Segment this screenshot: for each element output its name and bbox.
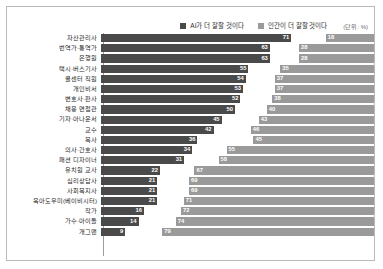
bar-ai: 54 <box>101 75 246 83</box>
bar-human: 71 <box>184 197 374 205</box>
bar-human: 55 <box>227 146 374 154</box>
bar-human: 72 <box>181 207 374 215</box>
bar-human: 67 <box>194 166 374 174</box>
bar-value-ai: 53 <box>233 86 243 92</box>
bar-ai: 21 <box>101 197 157 205</box>
legend-swatch-ai-icon <box>180 23 186 29</box>
bar-row: 유치원 교사2267 <box>7 165 374 175</box>
legend-item-ai: AI가 더 잘할 것이다 <box>180 23 244 30</box>
bar-pair: 5337 <box>101 84 374 94</box>
bar-value-ai: 21 <box>147 198 157 204</box>
bar-ai: 31 <box>101 156 184 164</box>
category-label: 은행원 <box>7 55 101 61</box>
category-label: 육아도우미(베이비시터) <box>7 198 101 204</box>
category-label: 개그맨 <box>7 229 101 235</box>
bar-pair: 5238 <box>101 94 374 104</box>
category-label: 의사·간호사 <box>7 147 101 153</box>
bar-ai: 52 <box>101 95 240 103</box>
bar-value-ai: 42 <box>203 127 213 133</box>
bar-human: 69 <box>189 177 374 185</box>
bar-human: 79 <box>162 228 374 236</box>
bar-value-human: 71 <box>184 198 194 204</box>
bar-human: 28 <box>299 54 374 62</box>
category-label: 택시·버스기사 <box>7 66 101 72</box>
bar-ai: 22 <box>101 166 160 174</box>
category-label: 기자·아나운서 <box>7 116 101 122</box>
bar-ai: 14 <box>101 217 139 225</box>
bar-value-ai: 34 <box>182 147 192 153</box>
category-label: 콜센터 직원 <box>7 76 101 82</box>
bar-ai: 9 <box>101 228 125 236</box>
bar-human: 37 <box>275 75 374 83</box>
bar-human: 74 <box>176 217 374 225</box>
bar-ai: 71 <box>101 34 291 42</box>
bar-value-human: 69 <box>189 178 199 184</box>
bar-pair: 4543 <box>101 115 374 125</box>
bar-value-human: 28 <box>299 45 309 51</box>
bar-value-human: 69 <box>189 188 199 194</box>
bar-rows-container: 자산관리사7118번역가·통역가6328은행원6328택시·버스기사5535콜센… <box>7 33 374 237</box>
legend-swatch-human-icon <box>258 23 264 29</box>
category-label: 채용 면접관 <box>7 106 101 112</box>
bar-value-human: 43 <box>259 117 269 123</box>
bar-value-ai: 54 <box>235 76 245 82</box>
bar-row: 심리상담사2169 <box>7 176 374 186</box>
bar-row: 은행원6328 <box>7 53 374 63</box>
bar-value-ai: 14 <box>128 219 138 225</box>
bar-pair: 2267 <box>101 165 374 175</box>
bar-human: 18 <box>326 34 374 42</box>
bar-value-ai: 50 <box>225 107 235 113</box>
legend-label-ai: AI가 더 잘할 것이다 <box>190 23 244 30</box>
bar-ai: 55 <box>101 65 248 73</box>
bar-pair: 2171 <box>101 196 374 206</box>
bar-value-human: 45 <box>253 137 263 143</box>
category-label: 변호사·판사 <box>7 96 101 102</box>
bar-row: 패션 디자이너3158 <box>7 155 374 165</box>
bar-human: 40 <box>267 105 374 113</box>
bar-row: 가수·아이돌1474 <box>7 216 374 226</box>
bar-row: 콜센터 직원5437 <box>7 74 374 84</box>
category-label: 심리상담사 <box>7 178 101 184</box>
category-label: 개인비서 <box>7 86 101 92</box>
bar-value-human: 37 <box>275 86 285 92</box>
bar-ai: 42 <box>101 126 214 134</box>
legend-label-human: 인간이 더 잘할 것이다 <box>268 23 327 30</box>
bar-value-ai: 22 <box>150 168 160 174</box>
bar-pair: 3455 <box>101 145 374 155</box>
bar-human: 35 <box>280 65 374 73</box>
bar-pair: 979 <box>101 227 374 237</box>
bar-value-ai: 52 <box>230 96 240 102</box>
bar-value-human: 74 <box>176 219 186 225</box>
category-label: 자산관리사 <box>7 35 101 41</box>
bar-value-human: 35 <box>280 66 290 72</box>
bar-human: 46 <box>251 126 374 134</box>
bar-pair: 4246 <box>101 125 374 135</box>
bar-value-ai: 63 <box>259 56 269 62</box>
bar-value-human: 72 <box>181 208 191 214</box>
bar-human: 69 <box>189 187 374 195</box>
bar-pair: 7118 <box>101 33 374 43</box>
bar-ai: 53 <box>101 85 243 93</box>
bar-value-human: 79 <box>162 229 172 235</box>
bar-value-ai: 21 <box>147 178 157 184</box>
bar-row: 자산관리사7118 <box>7 33 374 43</box>
chart-unit-label: (단위: %) <box>343 22 368 31</box>
bar-value-human: 46 <box>251 127 261 133</box>
bar-human: 45 <box>253 136 374 144</box>
bar-row: 목사3645 <box>7 135 374 145</box>
category-label: 사회복지사 <box>7 188 101 194</box>
bar-row: 채용 면접관5040 <box>7 104 374 114</box>
bar-human: 43 <box>259 116 374 124</box>
bar-row: 의사·간호사3455 <box>7 145 374 155</box>
bar-pair: 6328 <box>101 53 374 63</box>
category-label: 교수 <box>7 127 101 133</box>
category-label: 가수·아이돌 <box>7 218 101 224</box>
bar-human: 38 <box>272 95 374 103</box>
bar-value-ai: 55 <box>238 66 248 72</box>
bar-value-human: 67 <box>194 168 204 174</box>
bar-row: 사회복지사2169 <box>7 186 374 196</box>
bar-ai: 21 <box>101 177 157 185</box>
bar-value-ai: 45 <box>211 117 221 123</box>
bar-value-human: 40 <box>267 107 277 113</box>
legend-item-human: 인간이 더 잘할 것이다 <box>258 23 327 30</box>
